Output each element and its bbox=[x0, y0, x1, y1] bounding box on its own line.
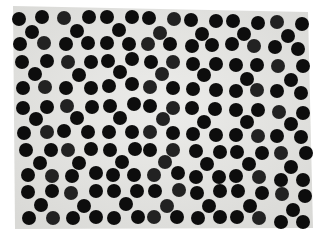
dot bbox=[127, 97, 141, 111]
dot bbox=[77, 199, 91, 213]
dot bbox=[158, 155, 172, 169]
dot bbox=[155, 67, 169, 81]
dot bbox=[103, 99, 117, 113]
dot bbox=[33, 156, 47, 170]
dot bbox=[84, 81, 98, 95]
dot bbox=[107, 211, 121, 225]
dot bbox=[202, 199, 216, 213]
dot bbox=[66, 211, 80, 225]
dot bbox=[167, 12, 181, 26]
dot bbox=[141, 37, 155, 51]
dot bbox=[250, 58, 264, 72]
dot bbox=[185, 101, 199, 115]
dot bbox=[57, 11, 71, 25]
dot bbox=[184, 13, 198, 27]
dot bbox=[148, 184, 162, 198]
dot bbox=[113, 65, 127, 79]
dot bbox=[291, 42, 305, 56]
dot bbox=[170, 210, 184, 224]
dot-pattern-photo bbox=[0, 0, 320, 239]
dot bbox=[89, 210, 103, 224]
dot bbox=[160, 199, 174, 213]
dot bbox=[272, 105, 286, 119]
dot bbox=[84, 142, 98, 156]
dot bbox=[81, 125, 95, 139]
dot bbox=[45, 184, 59, 198]
dot bbox=[230, 145, 244, 159]
dot bbox=[84, 55, 98, 69]
dot bbox=[186, 127, 200, 141]
dot bbox=[65, 169, 79, 183]
dot bbox=[275, 187, 289, 201]
dot bbox=[156, 112, 170, 126]
dot bbox=[213, 184, 227, 198]
dot bbox=[125, 77, 139, 91]
dot bbox=[166, 143, 180, 157]
dot bbox=[209, 83, 223, 97]
dot bbox=[208, 102, 222, 116]
dot bbox=[212, 170, 226, 184]
dot bbox=[37, 36, 51, 50]
dot bbox=[166, 55, 180, 69]
dot bbox=[21, 185, 35, 199]
dot bbox=[197, 115, 211, 129]
dot bbox=[16, 81, 30, 95]
dot bbox=[72, 156, 86, 170]
dot bbox=[191, 211, 205, 225]
dot bbox=[25, 25, 39, 39]
dot bbox=[89, 166, 103, 180]
dot bbox=[125, 52, 139, 66]
dot bbox=[125, 125, 139, 139]
dot bbox=[153, 26, 167, 40]
dot bbox=[44, 143, 58, 157]
dot bbox=[274, 146, 288, 160]
dot bbox=[143, 80, 157, 94]
dot bbox=[281, 29, 295, 43]
dot bbox=[237, 27, 251, 41]
dot bbox=[119, 197, 133, 211]
dot bbox=[190, 186, 204, 200]
dot bbox=[61, 55, 75, 69]
dot bbox=[61, 143, 75, 157]
dot bbox=[213, 210, 227, 224]
dot bbox=[166, 81, 180, 95]
dot bbox=[247, 39, 261, 53]
dot bbox=[270, 84, 284, 98]
dot bbox=[70, 111, 84, 125]
dot bbox=[22, 211, 36, 225]
dot bbox=[229, 58, 243, 72]
dot bbox=[251, 129, 265, 143]
dot bbox=[106, 168, 120, 182]
dot bbox=[147, 210, 161, 224]
dot bbox=[251, 16, 265, 30]
dot bbox=[270, 15, 284, 29]
dot bbox=[102, 79, 116, 93]
dot bbox=[144, 55, 158, 69]
dot bbox=[40, 54, 54, 68]
dot bbox=[186, 82, 200, 96]
dot bbox=[189, 144, 203, 158]
dot bbox=[166, 101, 180, 115]
dot bbox=[143, 99, 157, 113]
dot bbox=[81, 36, 95, 50]
dot bbox=[250, 83, 264, 97]
dot bbox=[122, 37, 136, 51]
dot bbox=[13, 37, 27, 51]
dot bbox=[60, 99, 74, 113]
dot bbox=[255, 186, 269, 200]
dot bbox=[45, 169, 59, 183]
dot bbox=[186, 57, 200, 71]
dot bbox=[284, 117, 298, 131]
dot bbox=[284, 160, 298, 174]
dot bbox=[172, 183, 186, 197]
dot bbox=[35, 10, 49, 24]
dot bbox=[298, 189, 312, 203]
dot bbox=[15, 55, 29, 69]
dot bbox=[163, 37, 177, 51]
dot bbox=[40, 125, 54, 139]
dot bbox=[240, 72, 254, 86]
dot bbox=[102, 125, 116, 139]
dot bbox=[115, 155, 129, 169]
dot bbox=[21, 168, 35, 182]
dot bbox=[229, 128, 243, 142]
